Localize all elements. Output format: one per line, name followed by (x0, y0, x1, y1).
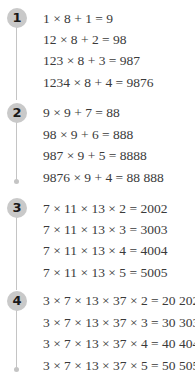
equation: 123 × 8 + 3 = 987 (43, 53, 140, 69)
connector-line (16, 20, 17, 100)
equation: 7 × 11 × 13 × 2 = 2002 (43, 201, 167, 217)
number-badge: 4 (7, 291, 27, 311)
number-badge: 1 (7, 8, 27, 28)
connector-line (16, 210, 17, 290)
equation: 7 × 11 × 13 × 3 = 3003 (43, 222, 167, 238)
equation: 3 × 7 × 13 × 37 × 4 = 40 404 (43, 336, 195, 352)
connector-end-dot (14, 179, 19, 184)
equation: 1 × 8 + 1 = 9 (43, 11, 113, 27)
equation: 987 × 9 + 5 = 8888 (43, 148, 147, 164)
equation: 3 × 7 × 13 × 37 × 3 = 30 303 (43, 315, 195, 331)
equation: 9 × 9 + 7 = 88 (43, 105, 120, 121)
connector-end-dot (14, 367, 19, 372)
equation: 98 × 9 + 6 = 888 (43, 127, 133, 143)
equation: 9876 × 9 + 4 = 88 888 (43, 170, 164, 186)
equation: 12 × 8 + 2 = 98 (43, 32, 127, 48)
equation: 1234 × 8 + 4 = 9876 (43, 75, 154, 91)
equation: 3 × 7 × 13 × 37 × 5 = 50 505 (43, 358, 195, 374)
equation: 7 × 11 × 13 × 5 = 5005 (43, 265, 167, 281)
number-badge: 3 (7, 198, 27, 218)
equation: 3 × 7 × 13 × 37 × 2 = 20 202 (43, 293, 195, 309)
equation: 7 × 11 × 13 × 4 = 4004 (43, 243, 167, 259)
number-badge: 2 (7, 103, 27, 123)
